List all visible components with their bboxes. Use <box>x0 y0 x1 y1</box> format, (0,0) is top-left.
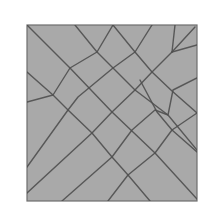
crease-pattern-diagram <box>0 0 210 213</box>
